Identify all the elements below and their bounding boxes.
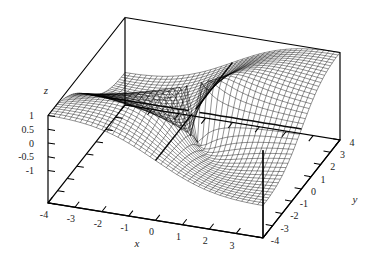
x-axis-tick-label: -2	[94, 218, 102, 229]
z-axis-tick-label: 0.5	[22, 124, 35, 135]
x-axis-tick-label: 3	[230, 240, 235, 251]
z-axis-tick-label: -0.5	[18, 151, 34, 162]
x-axis-tick-label: 2	[203, 235, 208, 246]
y-axis-tick-label: 3	[340, 149, 345, 160]
y-axis-tick-label: 4	[350, 137, 355, 148]
z-axis-tick-label: -1	[26, 165, 34, 176]
x-axis-tick-label: 1	[176, 231, 181, 242]
y-axis-tick-label: 1	[321, 174, 326, 185]
y-axis-tick-label: 0	[311, 186, 316, 197]
z-axis-title: z	[43, 84, 49, 96]
x-axis-tick-label: -3	[67, 213, 75, 224]
surface-plot-figure: -4-3-2-10123-4-3-2-10123410.50-0.5-1xyz	[0, 0, 378, 261]
x-axis-tick-label: -4	[40, 209, 48, 220]
x-axis-tick-label: 0	[149, 226, 154, 237]
x-axis-title: x	[134, 237, 140, 249]
z-axis-tick-label: 0	[29, 138, 34, 149]
y-axis-tick-label: 2	[330, 161, 335, 172]
y-axis-title: y	[352, 193, 358, 205]
z-axis-tick-label: 1	[29, 110, 34, 121]
y-axis-tick-label: -4	[271, 235, 279, 246]
y-axis-tick-label: -1	[300, 198, 308, 209]
y-axis-tick-label: -2	[290, 210, 298, 221]
x-axis-tick-label: -1	[120, 222, 128, 233]
3d-surface-plot-canvas: -4-3-2-10123-4-3-2-10123410.50-0.5-1xyz	[0, 0, 378, 261]
y-axis-tick-label: -3	[280, 223, 288, 234]
